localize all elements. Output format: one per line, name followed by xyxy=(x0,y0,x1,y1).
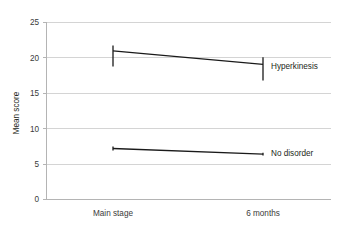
series-label-no-disorder: No disorder xyxy=(271,149,314,158)
chart-container: 25 20 15 10 5 0 Mean score Main stage 6 … xyxy=(0,0,350,239)
y-axis-title: Mean score xyxy=(12,91,21,134)
series-hyperkinesis: Hyperkinesis xyxy=(113,46,318,81)
y-tick-label-5: 5 xyxy=(34,160,39,169)
y-tick-label-15: 15 xyxy=(30,89,40,98)
y-axis: 25 20 15 10 5 0 Mean score xyxy=(12,18,47,204)
gridlines xyxy=(46,23,331,165)
series-label-hyperkinesis: Hyperkinesis xyxy=(271,62,318,71)
line-chart: 25 20 15 10 5 0 Mean score Main stage 6 … xyxy=(0,0,350,239)
x-axis: Main stage 6 months xyxy=(46,200,331,219)
line-no-disorder xyxy=(113,149,263,155)
series-no-disorder: No disorder xyxy=(113,146,314,158)
x-tick-label-6-months: 6 months xyxy=(246,209,280,218)
y-tick-label-25: 25 xyxy=(30,18,40,27)
x-tick-label-main-stage: Main stage xyxy=(93,209,133,218)
y-tick-label-10: 10 xyxy=(30,125,40,134)
y-tick-label-20: 20 xyxy=(30,54,40,63)
y-tick-label-0: 0 xyxy=(34,195,39,204)
